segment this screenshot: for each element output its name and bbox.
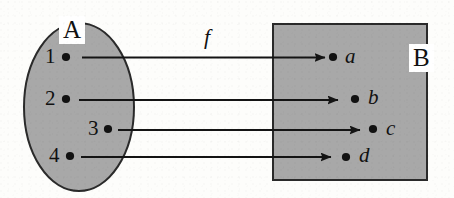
dot-element-1	[62, 53, 70, 61]
dot-element-b	[351, 95, 359, 103]
dot-element-2	[62, 95, 70, 103]
set-b-label: B	[409, 44, 434, 72]
dot-element-a	[329, 53, 337, 61]
dot-element-3	[104, 125, 112, 133]
set-a-label: A	[59, 16, 85, 44]
element-label-a: a	[345, 46, 356, 67]
element-label-c: c	[386, 118, 395, 139]
element-label-3: 3	[88, 118, 99, 139]
function-mapping-figure: A B f 1 2 3 4 a b c d	[0, 0, 454, 198]
function-label-f: f	[204, 26, 210, 48]
element-label-1: 1	[45, 46, 56, 67]
element-label-b: b	[368, 87, 379, 108]
dot-element-c	[369, 125, 377, 133]
dot-element-4	[66, 152, 74, 160]
element-label-2: 2	[45, 88, 56, 109]
set-a-ellipse	[24, 23, 134, 191]
element-label-4: 4	[49, 145, 60, 166]
dot-element-d	[342, 153, 350, 161]
element-label-d: d	[359, 145, 370, 166]
